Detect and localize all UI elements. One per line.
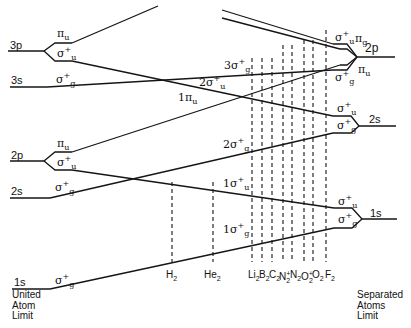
united-atom-limit-caption: United Atom Limit <box>12 290 41 322</box>
molecule-f2: F2 <box>325 270 335 282</box>
mo-label-1sigma-g: 1σ+g <box>223 222 249 238</box>
ua-1s-sigma-g: σ+g <box>55 273 74 289</box>
separated-atoms-limit-caption: Separated Atoms Limit <box>357 290 403 322</box>
ua-label-2p: 2p <box>11 150 23 161</box>
sa-1s-sigma-u: σ+u <box>338 194 357 210</box>
ua-label-1s: 1s <box>14 277 26 288</box>
ua-3s-sigma-g: σ+g <box>56 72 75 88</box>
correlation-lines <box>47 6 340 289</box>
sa-1s-sigma-g: σ+g <box>338 212 357 228</box>
molecule-n2-plus: N+2 <box>279 270 290 284</box>
sa-2p-sigma-u: σ+u <box>335 30 354 46</box>
ua-3p-sigma-u: σ+u <box>57 46 76 62</box>
molecule-li2: Li2 <box>248 270 260 282</box>
ua-label-3p: 3p <box>10 40 22 51</box>
sa-2s-sigma-g: σ+g <box>337 118 356 134</box>
sa-2s-sigma-u: σ+u <box>337 101 356 117</box>
ua-2p-sigma-u: σ+u <box>57 155 76 171</box>
molecule-n2: N2 <box>290 270 301 282</box>
mo-label-2sigma-u: 2σ+u <box>199 75 225 91</box>
molecule-o2-plus: O+2 <box>301 270 313 284</box>
ua-2p-pi-u: πu <box>57 138 69 152</box>
ua-label-3s: 3s <box>11 75 23 86</box>
sa-2p-pi-u: πu <box>358 64 370 78</box>
molecule-b2: B2 <box>259 270 270 282</box>
mo-label-3sigma-g: 3σ+g <box>224 58 250 74</box>
sa-label-2s: 2s <box>369 114 381 125</box>
ua-label-2s: 2s <box>11 186 23 197</box>
ua-2s-sigma-g: σ+g <box>55 180 74 196</box>
mo-label-1sigma-u: 1σ+u <box>223 176 249 192</box>
sa-2p-pi-g: πg <box>355 33 367 47</box>
mo-label-1pi-u: 1πu <box>178 92 197 106</box>
ua-3p-pi-u: πu <box>57 28 69 42</box>
molecule-h2: H2 <box>166 270 177 282</box>
molecule-he2: He2 <box>204 270 221 282</box>
sa-2p-sigma-g: σ+g <box>335 70 354 86</box>
sa-label-1s: 1s <box>370 208 382 219</box>
molecule-o2: O2 <box>312 270 324 282</box>
mo-label-2sigma-g: 2σ+g <box>223 137 249 153</box>
